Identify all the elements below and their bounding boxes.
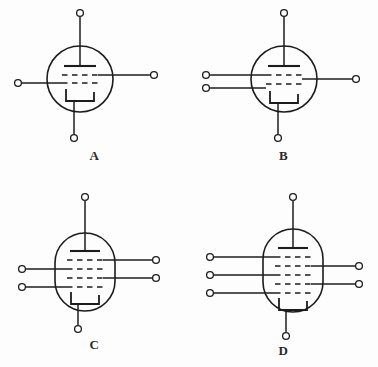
- grid-terminal-left-1-icon[interactable]: [207, 254, 214, 261]
- grid-terminal-left-2-icon[interactable]: [19, 284, 26, 291]
- anode-terminal-icon[interactable]: [290, 194, 297, 201]
- anode-terminal-icon[interactable]: [281, 10, 288, 17]
- tube-symbol-c: C: [0, 184, 189, 367]
- anode-terminal-icon[interactable]: [77, 10, 84, 17]
- grid-terminal-right-2-icon[interactable]: [356, 281, 363, 288]
- tube-c-label: C: [0, 337, 189, 353]
- cathode-electrode: [279, 298, 307, 310]
- tube-symbols-figure: A B: [0, 0, 378, 367]
- grid-terminal-left-2-icon[interactable]: [203, 85, 210, 92]
- cathode-electrode: [66, 89, 94, 101]
- cathode-terminal-icon[interactable]: [283, 333, 290, 340]
- grid-terminal-left-1-icon[interactable]: [203, 72, 210, 79]
- tube-d-label: D: [189, 343, 378, 359]
- cathode-terminal-icon[interactable]: [275, 135, 282, 142]
- grid-terminal-left-1-icon[interactable]: [15, 80, 22, 87]
- tube-d-drawing: [189, 184, 378, 367]
- tube-b-label: B: [189, 148, 378, 164]
- tube-symbol-d: D: [189, 184, 378, 367]
- grid-terminal-left-1-icon[interactable]: [19, 266, 26, 273]
- tube-a-label: A: [0, 148, 189, 164]
- grid-terminal-right-1-icon[interactable]: [151, 72, 158, 79]
- anode-terminal-icon[interactable]: [82, 194, 89, 201]
- tube-symbol-a: A: [0, 0, 189, 183]
- cathode-terminal-icon[interactable]: [75, 326, 82, 333]
- tube-symbol-b: B: [189, 0, 378, 183]
- cathode-terminal-icon[interactable]: [71, 135, 78, 142]
- grid-terminal-right-1-icon[interactable]: [356, 263, 363, 270]
- grid-terminal-left-2-icon[interactable]: [207, 272, 214, 279]
- grid-terminal-left-3-icon[interactable]: [207, 290, 214, 297]
- grid-terminal-right-2-icon[interactable]: [153, 275, 160, 282]
- cathode-electrode: [71, 292, 99, 304]
- grid-terminal-right-1-icon[interactable]: [353, 76, 360, 83]
- cathode-electrode: [270, 91, 298, 103]
- grid-terminal-right-1-icon[interactable]: [153, 257, 160, 264]
